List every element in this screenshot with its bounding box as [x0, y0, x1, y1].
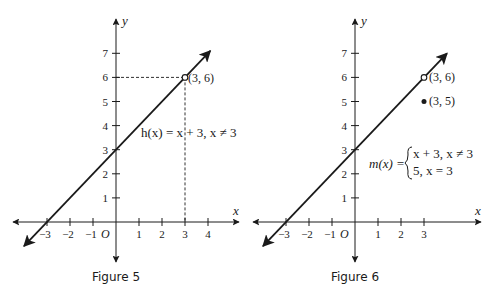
figure-6: xyO−3−2−11231234567 (3, 6) (3, 5) m(x) =…	[253, 13, 481, 284]
point-label-3-6: (3, 6)	[429, 70, 455, 84]
y-tick-label: 2	[103, 168, 109, 180]
y-tick-label: 7	[342, 47, 348, 59]
y-tick-label: 1	[103, 192, 109, 204]
y-tick-label: 2	[342, 168, 348, 180]
y-tick-label: 5	[342, 96, 348, 108]
function-label-h: h(x) = x + 3, x ≠ 3	[141, 125, 236, 140]
plot-svg: xyO−3−2−112341234567 h(x) = x + 3, x ≠ 3…	[0, 0, 495, 299]
function-line	[24, 51, 210, 246]
x-axis-label: x	[232, 203, 239, 218]
x-tick-label: 2	[398, 228, 404, 240]
figure-caption: Figure 5	[92, 270, 140, 284]
x-tick-label: 1	[375, 228, 381, 240]
case-2: 5, x = 3	[413, 163, 453, 178]
y-tick-label: 6	[342, 71, 348, 83]
y-tick-label: 4	[342, 120, 348, 132]
figure-5: xyO−3−2−112341234567 h(x) = x + 3, x ≠ 3…	[13, 13, 239, 284]
y-tick-label: 3	[342, 144, 348, 156]
x-tick-label: −1	[85, 228, 97, 240]
filled-point-icon	[422, 99, 427, 104]
x-tick-label: −3	[39, 228, 51, 240]
x-tick-label: −1	[324, 228, 336, 240]
origin-label: O	[101, 227, 110, 241]
y-tick-label: 3	[103, 144, 109, 156]
x-tick-label: −2	[301, 228, 313, 240]
point-label-3-6: (3, 6)	[188, 71, 214, 85]
function-label-m: m(x) =	[369, 156, 405, 171]
brace-icon	[405, 147, 412, 179]
function-lhs: m(x) =	[369, 156, 405, 171]
dashed-guides	[116, 77, 185, 222]
x-tick-label: −2	[62, 228, 74, 240]
x-tick-label: 3	[182, 228, 188, 240]
x-tick-label: 4	[205, 228, 211, 240]
x-axis-label: x	[474, 203, 481, 218]
origin-label: O	[340, 227, 349, 241]
points	[421, 75, 427, 104]
figure-canvas: xyO−3−2−112341234567 h(x) = x + 3, x ≠ 3…	[0, 0, 495, 299]
y-axis-label: y	[120, 13, 128, 28]
case-1: x + 3, x ≠ 3	[413, 146, 473, 161]
function-line-h	[24, 51, 210, 246]
y-tick-label: 6	[103, 71, 109, 83]
y-axis-label: y	[359, 13, 367, 28]
y-tick-label: 4	[103, 120, 109, 132]
y-tick-label: 1	[342, 192, 348, 204]
x-tick-label: 2	[159, 228, 165, 240]
x-tick-label: 1	[136, 228, 142, 240]
open-point-icon	[182, 75, 188, 81]
y-tick-label: 7	[103, 47, 109, 59]
figure-caption: Figure 6	[331, 270, 379, 284]
open-point-icon	[421, 75, 427, 81]
y-tick-label: 5	[103, 96, 109, 108]
points	[182, 75, 188, 81]
point-label-3-5: (3, 5)	[429, 94, 455, 108]
x-tick-label: −3	[278, 228, 290, 240]
x-tick-label: 3	[421, 228, 427, 240]
